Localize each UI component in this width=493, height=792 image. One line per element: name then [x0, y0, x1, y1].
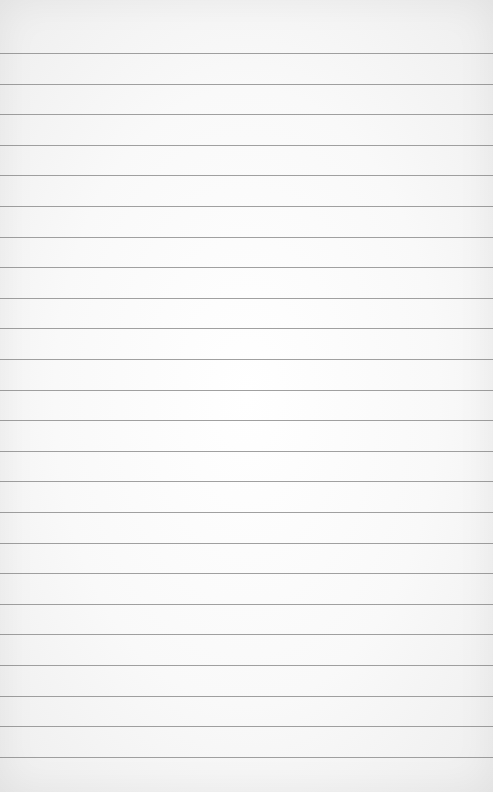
ruled-line	[0, 604, 493, 605]
ruled-line	[0, 175, 493, 176]
ruled-line	[0, 634, 493, 635]
ruled-line	[0, 328, 493, 329]
ruled-line	[0, 665, 493, 666]
ruled-line	[0, 267, 493, 268]
ruled-line	[0, 298, 493, 299]
lined-paper-sheet	[0, 0, 493, 792]
ruled-line	[0, 206, 493, 207]
ruled-line	[0, 84, 493, 85]
ruled-line	[0, 543, 493, 544]
ruled-line	[0, 481, 493, 482]
ruled-line	[0, 420, 493, 421]
ruled-line	[0, 359, 493, 360]
ruled-line	[0, 726, 493, 727]
ruled-line	[0, 53, 493, 54]
paper-vignette	[0, 0, 493, 792]
ruled-line	[0, 696, 493, 697]
ruled-line	[0, 451, 493, 452]
ruled-line	[0, 757, 493, 758]
ruled-line	[0, 145, 493, 146]
ruled-line	[0, 573, 493, 574]
ruled-line	[0, 114, 493, 115]
ruled-line	[0, 390, 493, 391]
ruled-line	[0, 512, 493, 513]
ruled-line	[0, 237, 493, 238]
